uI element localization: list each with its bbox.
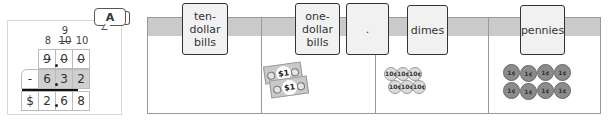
- carry-tenths-struck: 10: [56, 35, 74, 46]
- penny-coin: 1¢: [520, 65, 537, 82]
- penny-coin: 1¢: [503, 82, 520, 99]
- subtrahend-digit: 2: [72, 69, 90, 89]
- difference-row: $ 2 6 8: [22, 91, 90, 111]
- minuend-digit: 0: [72, 49, 90, 69]
- bill-ring-icon: [291, 68, 300, 77]
- subtrahend-digit: 3: [55, 69, 73, 89]
- minus-sign: -: [21, 69, 39, 89]
- subtrahend-digit: 6: [38, 69, 56, 89]
- minuend-digit: 9: [38, 49, 56, 69]
- penny-coin: 1¢: [537, 64, 554, 81]
- header-dimes: dimes: [407, 5, 448, 55]
- carry-ones: 8: [39, 35, 57, 46]
- column-divider: [261, 18, 262, 113]
- decimal-point: [55, 104, 58, 107]
- penny-coin: 1¢: [503, 64, 520, 81]
- subtrahend-row: - 6 3 2: [22, 69, 90, 89]
- header-ten-dollar-bills: ten- dollar bills: [182, 3, 228, 55]
- bill-ring-icon: [267, 71, 276, 80]
- dime-coin: 10¢: [412, 80, 426, 94]
- difference-digit: 2: [38, 91, 56, 111]
- bill-ring-icon: [273, 85, 282, 94]
- header-one-dollar-bills: one- dollar bills: [295, 3, 340, 55]
- carry-hundredths: 10: [73, 35, 91, 46]
- column-divider: [488, 18, 489, 113]
- dime-coin: 10¢: [408, 67, 422, 81]
- penny-coin: 1¢: [554, 82, 571, 99]
- decimal-point: [55, 83, 58, 86]
- difference-digit: 8: [72, 91, 90, 111]
- difference-digit: 6: [55, 91, 73, 111]
- subtraction-grid: 9 0 0 - 6 3 2 $ 2 6 8: [22, 49, 90, 111]
- penny-coin: 1¢: [537, 82, 554, 99]
- header-decimal-point: .: [346, 3, 389, 55]
- example-badge: A: [94, 8, 126, 26]
- header-pennies: pennies: [520, 5, 565, 55]
- penny-coin: 1¢: [554, 64, 571, 81]
- sum-rule: [22, 89, 78, 91]
- dollar-sign: $: [21, 91, 39, 111]
- bill-ring-icon: [297, 82, 306, 91]
- decimal-point: [55, 64, 58, 67]
- penny-coin: 1¢: [520, 83, 537, 100]
